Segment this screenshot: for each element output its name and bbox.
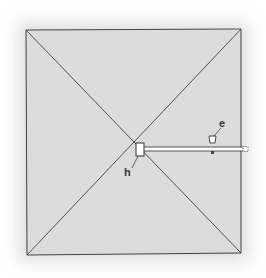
diagram-lines: [0, 0, 266, 278]
label-h: h: [124, 166, 131, 178]
rod: [143, 147, 246, 151]
diagonal-2: [27, 29, 241, 255]
rod-end-cap: [243, 147, 248, 152]
component-e: [209, 136, 216, 143]
label-e: e: [219, 117, 225, 129]
leader-e: [214, 128, 221, 136]
component-h: [136, 143, 144, 156]
leader-h: [132, 156, 138, 168]
component-e-base: [211, 151, 214, 154]
